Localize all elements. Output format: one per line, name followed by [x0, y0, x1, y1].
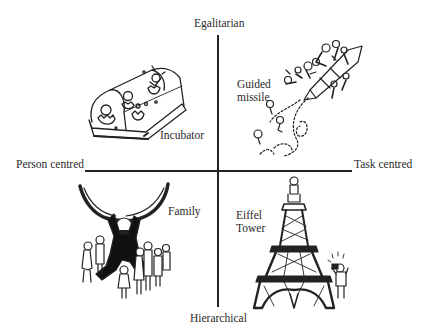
horizontal-axis [85, 170, 352, 172]
incubator-icon [86, 66, 190, 142]
guided-missile-icon [250, 38, 372, 160]
family-icon [76, 184, 176, 300]
axis-label-hierarchical: Hierarchical [190, 312, 247, 325]
axis-label-person-centred: Person centred [16, 158, 84, 171]
axis-label-egalitarian: Egalitarian [194, 17, 244, 30]
eiffel-tower-icon [254, 176, 354, 310]
